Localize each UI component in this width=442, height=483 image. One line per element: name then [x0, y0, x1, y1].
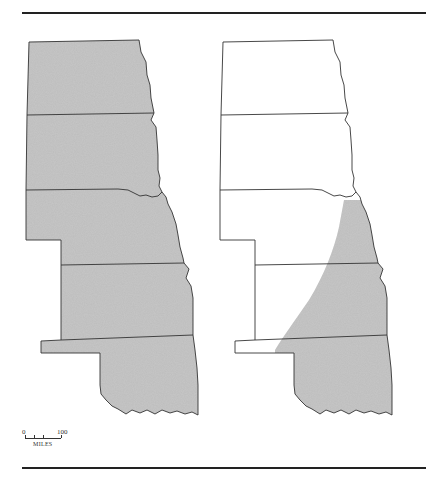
- scale-tick: [25, 435, 26, 438]
- scale-tick: [43, 435, 44, 438]
- scale-tick: [61, 435, 62, 438]
- scale-tick: [34, 435, 35, 438]
- left-map: [26, 40, 198, 415]
- scale-line: [25, 438, 61, 439]
- right-map: [220, 40, 404, 420]
- scale-bar: 0 100 MILES: [22, 428, 82, 458]
- maps-figure: [0, 0, 442, 483]
- bottom-rule: [22, 467, 426, 469]
- left-region-fill: [26, 40, 198, 415]
- scale-end-label: 100: [57, 428, 68, 436]
- scale-unit-label: MILES: [33, 441, 53, 447]
